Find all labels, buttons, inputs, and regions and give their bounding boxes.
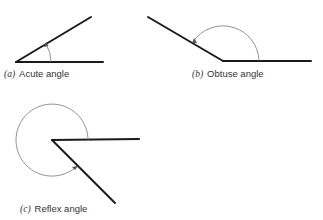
obtuse-angle-figure	[148, 17, 311, 61]
caption-label: Reflex angle	[35, 203, 88, 214]
reflex-terminal-ray	[52, 140, 115, 203]
caption-label: Acute angle	[19, 68, 69, 79]
caption-label: Obtuse angle	[207, 68, 264, 79]
caption-tag: (c)	[20, 204, 31, 214]
angle-diagrams	[0, 0, 323, 220]
acute-terminal-ray	[16, 17, 91, 62]
caption-tag: (b)	[192, 69, 203, 79]
obtuse-arrow-icon	[192, 38, 197, 43]
acute-angle-arc	[46, 44, 51, 62]
caption-obtuse: (b)Obtuse angle	[192, 68, 264, 79]
obtuse-terminal-ray	[148, 17, 223, 61]
caption-tag: (a)	[4, 69, 15, 79]
obtuse-angle-arc	[193, 26, 259, 61]
reflex-angle-figure	[16, 104, 139, 203]
caption-reflex: (c)Reflex angle	[20, 203, 87, 214]
reflex-base-ray	[52, 139, 139, 140]
acute-angle-figure	[16, 17, 103, 62]
caption-acute: (a)Acute angle	[4, 68, 69, 79]
